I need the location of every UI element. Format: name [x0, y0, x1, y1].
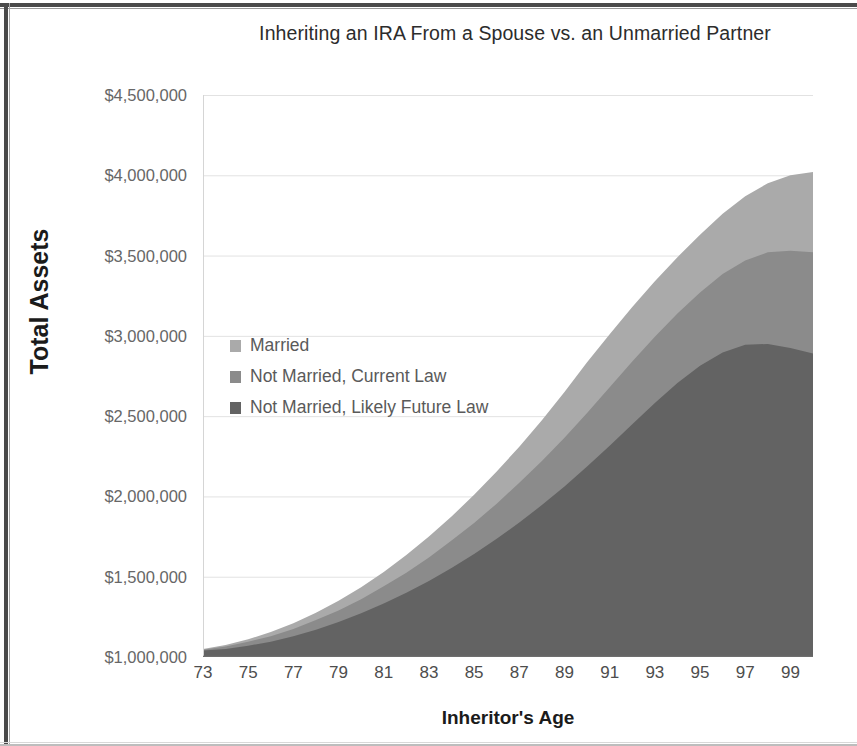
legend-item-label: Married: [250, 335, 309, 356]
legend-swatch-icon: [230, 340, 241, 352]
x-axis-tick-label: 99: [781, 663, 800, 683]
y-axis-title: Total Assets: [25, 202, 54, 402]
x-axis-tick-label: 85: [465, 663, 484, 683]
x-axis-tick-label: 79: [329, 663, 348, 683]
legend-item[interactable]: Not Married, Current Law: [230, 361, 560, 392]
x-axis-tick-label: 89: [555, 663, 574, 683]
y-axis-tick-label: $3,500,000: [104, 246, 187, 265]
chart-title: Inheriting an IRA From a Spouse vs. an U…: [180, 22, 850, 45]
page-frame-top-border: [0, 3, 857, 7]
page-frame-bottom-border-secondary: [0, 742, 857, 743]
legend-item[interactable]: Married: [230, 330, 560, 361]
y-axis-tick-label: $1,500,000: [104, 567, 187, 586]
y-axis-tick-label: $3,000,000: [104, 326, 187, 345]
page-frame-top-border-secondary: [0, 8, 857, 9]
x-axis-tick-label: 93: [645, 663, 664, 683]
x-axis-tick-label: 83: [419, 663, 438, 683]
y-axis-tick-label: $2,500,000: [104, 407, 187, 426]
legend-item-label: Not Married, Likely Future Law: [250, 397, 488, 418]
x-axis-tick-label: 87: [510, 663, 529, 683]
legend-item[interactable]: Not Married, Likely Future Law: [230, 392, 560, 423]
y-axis-tick-labels: $4,500,000$4,000,000$3,500,000$3,000,000…: [63, 95, 195, 657]
y-axis-tick-label: $2,000,000: [104, 487, 187, 506]
x-axis-tick-label: 81: [374, 663, 393, 683]
x-axis-tick-label: 77: [284, 663, 303, 683]
page-frame-left-border-secondary: [9, 3, 10, 746]
y-axis-tick-label: $4,000,000: [104, 166, 187, 185]
x-axis-tick-label: 75: [239, 663, 258, 683]
x-axis-tick-label: 95: [691, 663, 710, 683]
x-axis-tick-label: 91: [600, 663, 619, 683]
chart-page: Inheriting an IRA From a Spouse vs. an U…: [0, 0, 857, 746]
legend-swatch-icon: [230, 371, 241, 383]
x-axis-tick-labels: 7375777981838587899193959799: [203, 663, 813, 693]
x-axis-tick-label: 97: [736, 663, 755, 683]
legend-item-label: Not Married, Current Law: [250, 366, 446, 387]
x-axis-tick-label: 73: [194, 663, 213, 683]
y-axis-tick-label: $1,000,000: [104, 648, 187, 667]
x-axis-title: Inheritor's Age: [203, 707, 813, 729]
chart-legend: MarriedNot Married, Current LawNot Marri…: [230, 330, 560, 423]
legend-swatch-icon: [230, 402, 241, 414]
page-frame-left-border: [4, 3, 8, 746]
y-axis-tick-label: $4,500,000: [104, 86, 187, 105]
